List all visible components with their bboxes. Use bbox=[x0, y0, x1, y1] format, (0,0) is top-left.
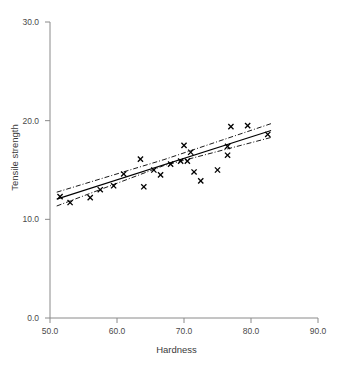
upper-confidence-band bbox=[57, 124, 271, 193]
x-axis-ticks bbox=[50, 318, 318, 323]
scatter-point bbox=[141, 184, 146, 189]
scatter-point bbox=[158, 172, 163, 177]
y-tick-label: 0.0 bbox=[5, 313, 39, 323]
scatter-point bbox=[228, 124, 233, 129]
scatter-point bbox=[198, 178, 203, 183]
x-axis-label: Hardness bbox=[0, 344, 353, 355]
axes bbox=[50, 22, 318, 318]
fit-line-path bbox=[57, 131, 271, 200]
y-tick-label: 30.0 bbox=[5, 17, 39, 27]
y-axis-label: Tensile strength bbox=[9, 98, 20, 218]
scatter-point bbox=[181, 143, 186, 148]
scatter-point bbox=[88, 195, 93, 200]
scatter-point bbox=[138, 157, 143, 162]
x-tick-label: 90.0 bbox=[298, 326, 338, 336]
scatter-point bbox=[245, 123, 250, 128]
scatter-point bbox=[191, 169, 196, 174]
x-tick-label: 70.0 bbox=[164, 326, 204, 336]
scatter-point bbox=[98, 187, 103, 192]
scatter-point bbox=[265, 132, 270, 137]
x-tick-label: 60.0 bbox=[97, 326, 137, 336]
scatter-point bbox=[185, 159, 190, 164]
x-tick-label: 50.0 bbox=[30, 326, 70, 336]
upper-band-path bbox=[57, 124, 271, 193]
x-tick-label: 80.0 bbox=[231, 326, 271, 336]
regression-fit-line bbox=[57, 131, 271, 200]
y-axis-ticks bbox=[45, 22, 50, 318]
scatter-plot bbox=[0, 0, 353, 365]
scatter-point bbox=[121, 171, 126, 176]
scatter-point bbox=[215, 167, 220, 172]
scatter-points bbox=[57, 123, 270, 205]
chart-figure: 0.010.020.030.0 50.060.070.080.090.0 Ten… bbox=[0, 0, 353, 365]
scatter-point bbox=[111, 183, 116, 188]
scatter-point bbox=[225, 153, 230, 158]
